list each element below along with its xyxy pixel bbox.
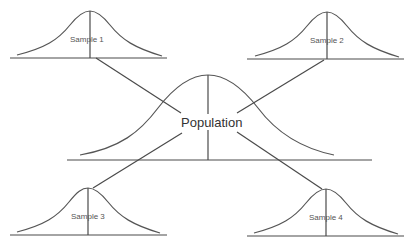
- sample-2-label: Sample 2: [310, 36, 344, 45]
- sample-3-label: Sample 3: [71, 212, 105, 221]
- sample-1-label: Sample 1: [70, 35, 104, 44]
- sample-2-distribution: Sample 2: [247, 12, 404, 59]
- sampling-diagram: Sample 1 Sample 2 Population Sample 3 Sa…: [0, 0, 408, 244]
- sample-4-distribution: Sample 4: [247, 189, 404, 236]
- sample-1-distribution: Sample 1: [10, 11, 167, 58]
- population-distribution: Population: [67, 75, 372, 160]
- connector-sample-1-to-population: [96, 58, 181, 113]
- population-label: Population: [181, 115, 242, 130]
- connector-sample-2-to-population: [237, 60, 324, 113]
- sample-3-distribution: Sample 3: [10, 188, 167, 235]
- sample-4-label: Sample 4: [309, 213, 343, 222]
